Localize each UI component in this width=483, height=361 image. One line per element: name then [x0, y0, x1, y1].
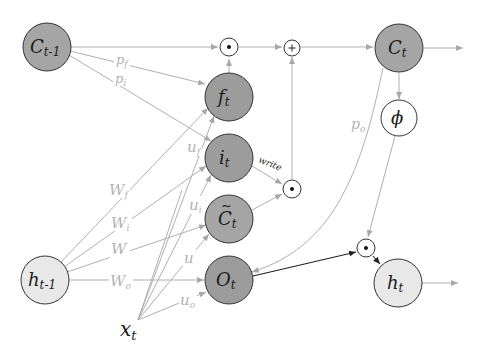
node-h: ht [374, 259, 422, 307]
edge-ctilde-to-mul-input [252, 194, 282, 210]
lstm-diagram: pf pi uf ui u uo Wf Wi W Wo po write Ct-… [0, 0, 483, 361]
node-cell-state: Ct [375, 24, 423, 72]
edge-x-to-f-uf [138, 116, 214, 320]
edge-o-to-mul-output [253, 252, 356, 276]
node-phi-activation: ϕ [381, 100, 417, 136]
node-output-gate: Ot [205, 256, 253, 304]
node-input-gate: it [205, 134, 253, 182]
add-operator [284, 40, 300, 56]
svg-text:xt: xt [120, 317, 137, 343]
label-w: W [111, 240, 128, 258]
edge-phi-to-mul-output [368, 136, 395, 237]
label-write: write [257, 155, 283, 173]
edge-x-to-ctilde-u [138, 234, 209, 320]
node-candidate: Ct ~ [205, 195, 253, 243]
mul-input-operator [283, 180, 301, 198]
edge-mul-output-to-h [373, 256, 380, 264]
label-u: u [184, 249, 194, 267]
mul-output-operator [357, 239, 375, 257]
node-c-prev: Ct-1 [23, 23, 71, 71]
nodes: Ct-1 ft it Ct ~ Ot Ct ϕ [21, 23, 423, 343]
mul-forget-operator [220, 38, 238, 56]
tilde-accent: ~ [221, 198, 232, 213]
node-h-prev: ht-1 [21, 256, 69, 304]
svg-text:ϕ: ϕ [391, 107, 403, 128]
node-forget-gate: ft [205, 73, 253, 121]
edge-hprev-to-f-wf [61, 108, 208, 262]
node-x: xt [120, 317, 137, 343]
